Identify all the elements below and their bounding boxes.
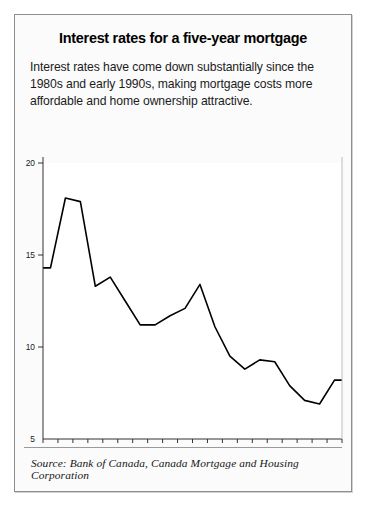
chart-plot-background xyxy=(43,163,342,439)
source-divider xyxy=(24,447,342,448)
figure-frame: Interest rates for a five-year mortgage … xyxy=(14,14,352,492)
svg-text:15: 15 xyxy=(26,250,36,260)
chart-subtitle: Interest rates have come down substantia… xyxy=(30,59,336,111)
source-note: Source: Bank of Canada, Canada Mortgage … xyxy=(31,457,341,481)
area-chart-svg: 5101520 19808182838485868788899091929394… xyxy=(15,133,353,449)
chart-plot-area: 5101520 19808182838485868788899091929394… xyxy=(15,133,353,449)
svg-text:5: 5 xyxy=(30,434,35,444)
chart-ytick-group: 5101520 xyxy=(26,158,43,444)
svg-text:20: 20 xyxy=(26,158,36,168)
page-title: Interest rates for a five-year mortgage xyxy=(27,29,339,47)
svg-text:10: 10 xyxy=(26,342,36,352)
